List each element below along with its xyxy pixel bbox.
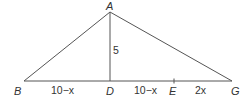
point-label-D: D [106,85,114,97]
triangle-figure: A B D E G 5 10−x 10−x 2x [0,0,249,99]
length-label-DE: 10−x [134,84,158,96]
length-label-BD: 10−x [51,84,75,96]
geometry-diagram: A B D E G 5 10−x 10−x 2x [0,0,249,99]
segment-AG [110,12,232,81]
point-label-E: E [169,85,177,97]
length-label-AD: 5 [113,44,119,56]
point-label-B: B [14,85,21,97]
point-label-A: A [105,0,113,12]
length-label-EG: 2x [195,84,207,96]
segment-AB [24,12,110,81]
point-label-G: G [231,85,240,97]
